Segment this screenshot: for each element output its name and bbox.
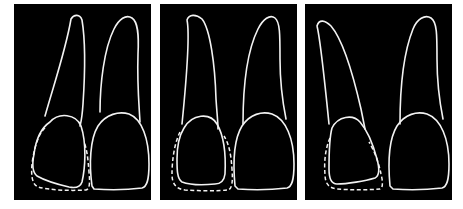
lateral-incisor-root (45, 15, 85, 126)
original-crown-outline (32, 128, 90, 190)
central-incisor-root (243, 17, 286, 124)
lateral-incisor-root (317, 21, 365, 129)
panel-1 (14, 4, 151, 200)
lateral-incisor-crown (177, 116, 225, 184)
central-incisor-root (100, 17, 140, 122)
lateral-incisor-root (182, 15, 218, 129)
panel-2 (160, 4, 297, 200)
panel-3 (305, 4, 452, 200)
tooth-diagram-3 (305, 4, 452, 200)
tooth-diagram-2 (160, 4, 297, 200)
tooth-diagram-1 (14, 4, 151, 200)
central-incisor-root (400, 17, 443, 124)
central-incisor-crown (234, 113, 294, 190)
lateral-incisor-crown (329, 117, 379, 184)
central-incisor-crown (389, 113, 449, 190)
lateral-incisor-crown (33, 116, 85, 188)
central-incisor-crown (90, 113, 149, 190)
